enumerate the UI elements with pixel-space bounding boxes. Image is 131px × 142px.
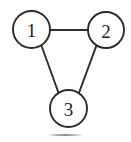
graph-figure: 1 2 3 [0, 0, 131, 142]
node-3-label: 3 [64, 99, 74, 120]
edge-1-3 [42, 46, 59, 93]
node-2[interactable]: 2 [88, 12, 124, 48]
node-1[interactable]: 1 [13, 11, 50, 48]
edge-2-3 [79, 45, 97, 93]
edge-group [42, 30, 97, 93]
node-3[interactable]: 3 [50, 90, 87, 127]
node-1-label: 1 [27, 20, 37, 41]
node-2-label: 2 [101, 21, 111, 42]
graph-canvas: 1 2 3 [0, 0, 131, 142]
